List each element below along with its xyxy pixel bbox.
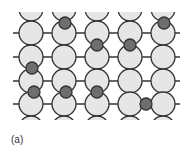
host-atom (52, 116, 76, 140)
solute-atom (91, 39, 103, 51)
host-atom (85, 116, 109, 140)
host-atom (118, 92, 142, 116)
figure-caption: (a) (11, 134, 23, 145)
solute-atom (26, 62, 38, 74)
host-atom (85, 0, 109, 21)
host-atom (151, 45, 175, 69)
solute-atom (124, 39, 136, 51)
host-atom (19, 21, 43, 45)
host-atom (19, 0, 43, 21)
host-atoms (19, 0, 175, 140)
lattice-diagram (0, 0, 190, 153)
host-atom (151, 92, 175, 116)
solute-atom (91, 86, 103, 98)
host-atom (118, 0, 142, 21)
host-atom (118, 116, 142, 140)
host-atom (52, 45, 76, 69)
host-atom (118, 69, 142, 93)
solute-atom (28, 86, 40, 98)
solute-atom (140, 98, 152, 110)
host-atom (151, 69, 175, 93)
solute-atom (60, 86, 72, 98)
host-atom (151, 116, 175, 140)
solute-atom (59, 17, 71, 29)
solute-atom (158, 17, 170, 29)
